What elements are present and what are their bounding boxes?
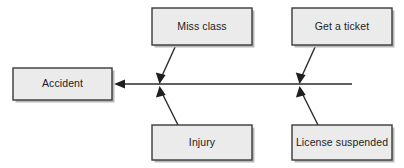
branch-line-injury [162,93,178,125]
effect-node-label: Accident [42,77,83,89]
cause-node-label-get-a-ticket: Get a ticket [315,20,369,32]
cause-node-label-license-suspended: License suspended [296,136,388,148]
branch-miss-class [156,45,176,84]
branch-injury [156,86,178,125]
branch-arrowhead-injury-icon [156,86,166,97]
cause-node-miss-class[interactable]: Miss class [152,8,255,48]
spine-group [114,80,352,89]
branch-arrowhead-miss-class-icon [156,73,166,84]
cause-node-get-a-ticket[interactable]: Get a ticket [292,8,395,48]
branch-arrowhead-get-a-ticket-icon [296,73,306,84]
fishbone-diagram: Accident Miss class Get a ticket Injury … [0,0,404,168]
branch-license-suspended [296,86,318,125]
branch-line-get-a-ticket [302,45,317,77]
effect-node-accident[interactable]: Accident [13,68,115,103]
cause-node-label-injury: Injury [189,136,216,148]
spine-arrowhead-icon [114,80,125,89]
branch-line-license-suspended [302,93,318,125]
cause-node-injury[interactable]: Injury [152,125,255,163]
branch-arrowhead-license-suspended-icon [296,86,306,97]
cause-node-label-miss-class: Miss class [177,20,226,32]
branch-line-miss-class [162,45,177,77]
branch-get-a-ticket [296,45,316,84]
cause-node-license-suspended[interactable]: License suspended [292,125,395,163]
fishbone-canvas: Accident Miss class Get a ticket Injury … [0,0,404,168]
